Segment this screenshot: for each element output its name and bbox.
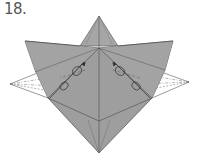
origami-diagram [0, 0, 198, 159]
main-body [25, 41, 173, 153]
top-point [80, 16, 118, 48]
